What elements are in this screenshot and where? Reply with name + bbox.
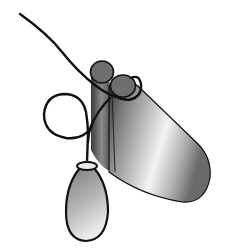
left-lumen-opening [91, 61, 114, 83]
wire-loop [44, 94, 92, 138]
balloon-neck [77, 162, 97, 170]
double-lumen-tube [91, 61, 211, 202]
illustration-canvas [0, 0, 226, 248]
balloon [66, 162, 108, 241]
catheter-illustration [0, 0, 226, 248]
balloon-body [66, 168, 108, 241]
balloon-stem [87, 134, 88, 162]
